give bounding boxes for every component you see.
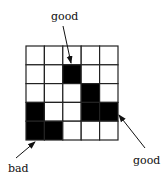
grid-cell-empty — [26, 65, 44, 84]
arrow-bottom-right-good — [119, 115, 145, 148]
grid-cell-filled — [26, 121, 44, 140]
grid-cell-empty — [81, 46, 99, 65]
grid-cell-empty — [100, 121, 118, 140]
grid-cell-empty — [63, 102, 81, 121]
grid-cell-empty — [81, 65, 99, 84]
grid-cell-empty — [26, 84, 44, 103]
label-bottom-right-good: good — [133, 155, 160, 166]
grid-diagram: good bad good — [0, 0, 166, 183]
grid-cell-empty — [63, 84, 81, 103]
grid-cells — [26, 46, 118, 140]
grid-cell-filled — [44, 121, 62, 140]
label-bottom-left-bad: bad — [8, 163, 29, 174]
grid-cell-empty — [63, 46, 81, 65]
grid-cell-filled — [26, 102, 44, 121]
grid-cell-empty — [100, 65, 118, 84]
label-top-good: good — [51, 11, 78, 22]
grid-cell-empty — [100, 84, 118, 103]
grid-cell-empty — [100, 46, 118, 65]
grid-cell-filled — [81, 102, 99, 121]
grid-cell-empty — [44, 102, 62, 121]
grid-cell-empty — [81, 121, 99, 140]
grid-cell-empty — [63, 121, 81, 140]
grid-cell-empty — [44, 84, 62, 103]
grid-cell-filled — [81, 84, 99, 103]
grid-cell-empty — [44, 46, 62, 65]
arrow-bottom-left-bad — [16, 142, 35, 158]
grid-cell-filled — [100, 102, 118, 121]
grid-cell-empty — [26, 46, 44, 65]
grid-cell-filled — [63, 65, 81, 84]
grid-cell-empty — [44, 65, 62, 84]
